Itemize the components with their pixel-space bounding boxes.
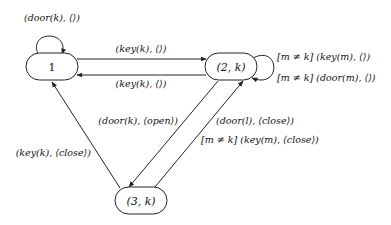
edge-1-to-2-label: (key(k), ⟨⟩) [116, 43, 167, 54]
node-2: (2, k) [205, 53, 257, 80]
edge-3-to-2-label-line-1: (door(l), ⟨close⟩) [216, 115, 294, 126]
edge-loop-2-label-line-2: [m ≠ k] (door(m), ⟨⟩) [277, 72, 376, 83]
edge-3-to-1-label: (key(k), ⟨close⟩) [16, 147, 92, 158]
edge-3-to-2-label-line-2: [m ≠ k] (key(m), ⟨close⟩) [201, 134, 319, 145]
edge-loop-2-label-line-1: [m ≠ k] (key(m), ⟨⟩) [277, 51, 371, 62]
edge-3-to-1 [52, 82, 120, 188]
node-3-label: (3, k) [126, 195, 155, 208]
edge-2-to-3-label: (door(k), ⟨open⟩) [98, 115, 178, 126]
node-1-label: 1 [49, 61, 56, 74]
node-1: 1 [26, 53, 78, 80]
edge-loop-1-label: (door(k), ⟨⟩) [24, 12, 80, 23]
edge-loop-1 [36, 36, 63, 54]
state-diagram: 1 (2, k) (3, k) (door(k), ⟨⟩) (key(k), ⟨… [0, 0, 391, 225]
node-2-label: (2, k) [216, 61, 245, 74]
node-3: (3, k) [115, 187, 167, 214]
edge-2-to-1-label: (key(k), ⟨⟩) [116, 78, 167, 89]
